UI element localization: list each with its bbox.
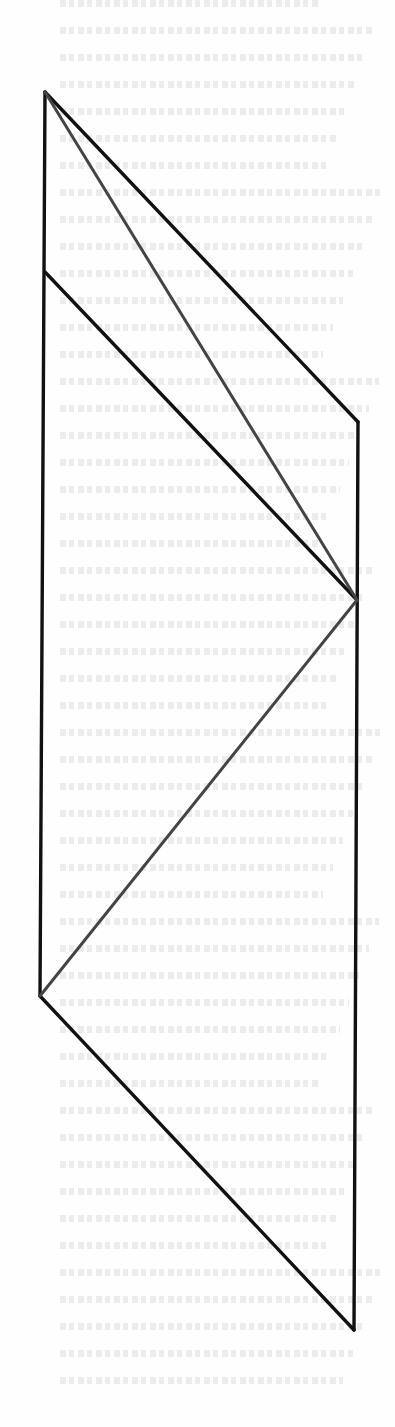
segment-DC [45,272,357,600]
segment-AC [45,92,357,600]
geometry-diagram [0,0,395,1427]
segment-AB [45,92,358,422]
scanned-page [0,0,395,1427]
segment-BF [354,422,358,1330]
segment-EC [40,600,357,996]
segment-EA [40,92,45,996]
segment-FE [40,996,354,1330]
